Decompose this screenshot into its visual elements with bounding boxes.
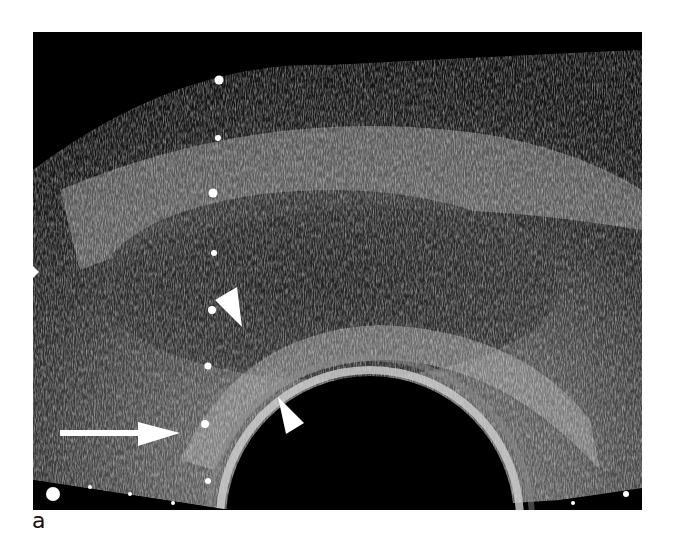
arrow-head-icon (138, 422, 180, 446)
caliper-dot-icon (201, 420, 209, 428)
arrow-shaft (60, 430, 142, 436)
caliper-dot-icon (205, 363, 212, 370)
marker-dot-icon (171, 501, 175, 505)
marker-dot-icon (88, 485, 92, 489)
arrowhead-icon (278, 397, 304, 434)
caliper-dot-icon (215, 76, 224, 85)
arrowhead-icon (215, 287, 242, 327)
caliper-dot-icon (208, 306, 216, 314)
marker-dot-icon (623, 491, 629, 497)
ultrasound-image (33, 32, 642, 510)
caliper-dot-icon (209, 189, 218, 198)
edge-markers (33, 266, 629, 505)
marker-dot-icon (571, 501, 575, 505)
annotation-layer (33, 32, 642, 510)
arrow-annotation (60, 422, 180, 446)
caliper-dot-icon (205, 478, 211, 484)
edge-marker-icon (33, 266, 39, 278)
caliper-dots (201, 76, 224, 485)
panel-label: a (32, 508, 45, 533)
marker-dot-icon (128, 492, 132, 496)
caliper-dot-icon (211, 250, 217, 256)
caliper-dot-icon (215, 135, 221, 141)
marker-dot-icon (46, 487, 60, 501)
